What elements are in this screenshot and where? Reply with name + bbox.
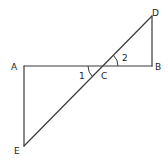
label-c: C: [101, 71, 107, 81]
label-b: B: [155, 62, 161, 72]
label-d: D: [152, 8, 159, 18]
label-a: A: [11, 62, 18, 72]
angle-1-label: 1: [79, 71, 85, 81]
geometry-diagram: A B C D E 1 2: [0, 0, 168, 165]
angle-1-arc: [88, 66, 93, 77]
segment-de: [24, 16, 152, 146]
label-e: E: [14, 146, 20, 156]
angle-2-arc: [114, 55, 119, 66]
angle-2-label: 2: [122, 53, 128, 63]
